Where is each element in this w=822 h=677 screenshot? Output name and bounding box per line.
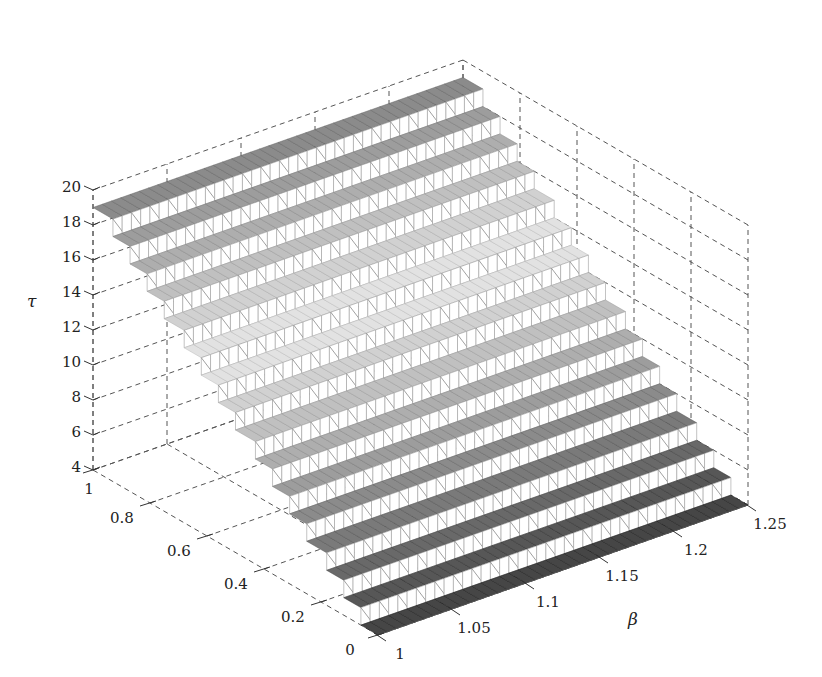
z-tick-label: 10 <box>62 353 81 371</box>
y-tick-label: 0.6 <box>167 542 191 560</box>
y-tick-label: 0.8 <box>110 509 134 527</box>
x-tick-label: 1.25 <box>753 515 786 533</box>
x-axis-label: β <box>627 609 638 629</box>
z-tick-label: 16 <box>62 248 81 266</box>
z-tick-label: 12 <box>62 318 81 336</box>
x-tick-label: 1 <box>395 645 405 663</box>
y-tick-label: 0.4 <box>224 575 248 593</box>
z-tick-label: 6 <box>71 423 81 441</box>
z-tick-label: 4 <box>71 458 81 476</box>
surface-mesh <box>93 78 748 636</box>
z-axis-tick-labels: 4 6 8 10 12 14 16 18 20 <box>62 178 81 476</box>
x-tick-label: 1.05 <box>457 619 490 637</box>
z-axis-label: τ <box>27 291 37 311</box>
z-tick-label: 18 <box>62 213 81 231</box>
x-tick-label: 1.2 <box>684 541 708 559</box>
y-tick-label: 1 <box>84 480 94 498</box>
z-tick-label: 14 <box>62 283 81 301</box>
z-tick-label: 8 <box>71 388 81 406</box>
z-tick-label: 20 <box>62 178 81 196</box>
x-tick-label: 1.1 <box>536 593 560 611</box>
x-tick-label: 1.15 <box>605 567 638 585</box>
y-tick-label: 0 <box>345 641 355 659</box>
surface-plot: 4 6 8 10 12 14 16 18 20 0 0.2 0.4 0.6 0.… <box>0 0 822 677</box>
y-tick-label: 0.2 <box>281 608 305 626</box>
